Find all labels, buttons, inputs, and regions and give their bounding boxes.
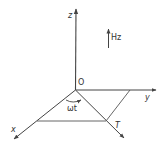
x-axis xyxy=(14,90,76,139)
rotated-axis-t xyxy=(76,90,125,138)
y-axis-label: y xyxy=(145,94,150,102)
angle-label: ωt xyxy=(67,105,77,113)
z-axis xyxy=(76,9,77,90)
field-label: Hz xyxy=(111,34,121,42)
projection-line-diagonal xyxy=(106,90,130,121)
coordinate-diagram xyxy=(0,0,166,150)
x-axis-label: x xyxy=(11,126,16,134)
point-t-label: T xyxy=(115,122,120,130)
z-axis-label: z xyxy=(68,12,72,20)
angle-arc xyxy=(66,100,81,102)
origin-label: O xyxy=(78,79,84,87)
